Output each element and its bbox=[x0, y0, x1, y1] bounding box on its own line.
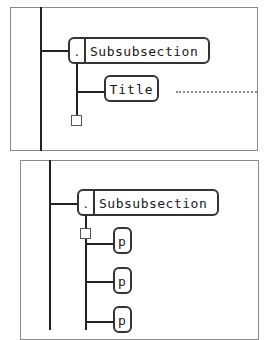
paragraph-label: p bbox=[118, 313, 127, 328]
child-connector bbox=[85, 243, 113, 245]
tree-trunk-line bbox=[49, 160, 51, 330]
child-trunk-line bbox=[76, 64, 78, 116]
subsubsection-node[interactable]: . Subsubsection bbox=[68, 37, 210, 64]
insert-placeholder-square[interactable] bbox=[71, 115, 82, 126]
child-connector bbox=[85, 321, 113, 323]
collapse-toggle[interactable]: . bbox=[70, 39, 86, 62]
child-connector bbox=[85, 281, 113, 283]
child-connector bbox=[76, 91, 104, 93]
node-label: Subsubsection bbox=[86, 42, 198, 59]
title-node[interactable]: Title bbox=[104, 75, 159, 102]
node-label: Subsubsection bbox=[95, 194, 207, 211]
title-label: Title bbox=[109, 82, 153, 97]
paragraph-node[interactable]: p bbox=[113, 306, 132, 333]
subsubsection-node[interactable]: . Subsubsection bbox=[77, 189, 219, 216]
paragraph-node[interactable]: p bbox=[113, 267, 132, 294]
paragraph-label: p bbox=[118, 234, 127, 249]
insert-placeholder-square[interactable] bbox=[80, 228, 91, 239]
branch-connector bbox=[49, 203, 77, 205]
content-continuation-dots bbox=[176, 91, 257, 93]
tree-panel-2 bbox=[20, 160, 259, 340]
paragraph-node[interactable]: p bbox=[113, 227, 132, 254]
paragraph-label: p bbox=[118, 274, 127, 289]
tree-trunk-line bbox=[40, 7, 42, 151]
collapse-toggle[interactable]: . bbox=[79, 191, 95, 214]
branch-connector bbox=[40, 50, 68, 52]
